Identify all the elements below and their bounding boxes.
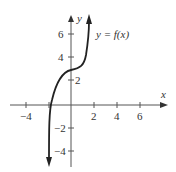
y-tick-label: −2 <box>54 122 66 134</box>
y-tick-label: 2 <box>75 74 81 86</box>
function-curve <box>49 22 89 160</box>
y-axis-arrow-icon <box>68 15 74 22</box>
y-tick-label: −4 <box>54 145 66 157</box>
function-graph: −4 2 4 6 6 4 2 −2 −4 y x y = f(x) <box>0 0 176 172</box>
x-tick-label: −4 <box>20 110 32 122</box>
curve-top-arrow-icon <box>86 14 92 24</box>
curve-bottom-arrow-icon <box>46 157 52 167</box>
y-tick-label: 4 <box>58 51 64 63</box>
curve-label: y = f(x) <box>95 28 129 41</box>
x-tick-label: 6 <box>137 110 143 122</box>
x-tick-label: 4 <box>114 110 120 122</box>
x-axis-label: x <box>160 88 166 100</box>
y-tick-label: 6 <box>58 28 64 40</box>
x-axis-arrow-icon <box>160 102 168 108</box>
x-tick-label: 2 <box>91 110 97 122</box>
y-axis-label: y <box>76 12 82 24</box>
